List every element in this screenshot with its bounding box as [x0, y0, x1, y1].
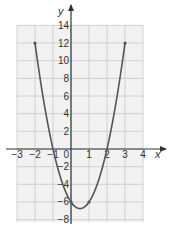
y-tick-label: −2	[58, 161, 70, 172]
data-point	[33, 41, 36, 44]
x-tick-label: −2	[29, 149, 41, 160]
data-point	[87, 200, 90, 203]
y-tick-label: −6	[58, 196, 70, 207]
y-tick-label: 8	[63, 73, 69, 84]
x-tick-label: 3	[122, 149, 128, 160]
parabola-chart: −3−2−1012341412108642−2−4−6−8 x y	[0, 0, 172, 230]
x-tick-label: 1	[86, 149, 92, 160]
data-point	[69, 200, 72, 203]
y-tick-label: 2	[63, 126, 69, 137]
y-tick-label: 12	[58, 38, 70, 49]
x-tick-label: 4	[140, 149, 146, 160]
x-axis-label: x	[154, 148, 161, 160]
y-axis-label: y	[57, 5, 65, 17]
y-tick-label: −8	[58, 214, 70, 225]
y-tick-label: 14	[58, 20, 70, 31]
x-tick-label: −3	[11, 149, 23, 160]
y-tick-label: 10	[58, 55, 70, 66]
y-tick-label: 4	[63, 108, 69, 119]
data-point	[123, 41, 126, 44]
x-tick-label: 0	[63, 149, 69, 160]
y-tick-label: 6	[63, 91, 69, 102]
